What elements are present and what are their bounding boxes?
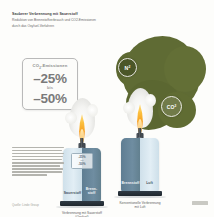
co2-label: CO xyxy=(167,104,175,110)
conventional-label-fuel: Brennstoff xyxy=(121,181,140,185)
co2-card-title: CO2-Emissionen xyxy=(23,63,77,70)
body-text-line xyxy=(12,165,60,166)
oxyfuel-caption-line-2: (Oxyfuel) xyxy=(45,215,119,217)
co2-subscript: 2 xyxy=(174,105,176,108)
carbon-dioxide-molecule-bubble: CO2 xyxy=(161,96,182,117)
body-text-line xyxy=(12,168,63,169)
conventional-tank-base xyxy=(118,191,162,196)
plume-puff-right xyxy=(87,104,98,117)
page-subtitle-line-2: durch das Oxyfuel-Verfahren xyxy=(12,24,132,29)
body-text-line xyxy=(12,159,62,160)
infographic-page: Sauberer Verbrennung mit Sauerstoff Redu… xyxy=(0,0,214,217)
page-subtitle-line-1: Reduktion von Brennstoffverbrauch und CO… xyxy=(12,18,132,23)
oxyfuel-base-shadow xyxy=(56,206,108,208)
body-text-line xyxy=(12,171,62,172)
oxyfuel-label-oxygen: Sauerstoff xyxy=(63,191,82,195)
nitrogen-subscript: 2 xyxy=(128,66,130,69)
body-text-line xyxy=(12,150,62,151)
oxyfuel-reduction-badge: -25% bis -50% xyxy=(71,153,93,169)
page-title: Sauberer Verbrennung mit Sauerstoff xyxy=(12,12,132,17)
co2-value-upper: –25% xyxy=(23,71,77,86)
burner-nozzle xyxy=(80,138,83,147)
oxyfuel-tank: -25% bis -50% Sauerstoff Brenn- stoff xyxy=(63,148,101,202)
conventional-caption-line-2: mit Luft xyxy=(103,205,177,209)
header: Sauberer Verbrennung mit Sauerstoff Redu… xyxy=(12,12,132,28)
body-text-line xyxy=(12,156,63,157)
conventional-label-air: Luft xyxy=(140,181,159,185)
badge-value-bottom: -50% xyxy=(78,163,85,167)
conventional-tank: Brennstoff Luft xyxy=(121,138,159,192)
body-text-line xyxy=(12,153,64,154)
oxyfuel-caption: Verbrennung mit Sauerstoff (Oxyfuel) xyxy=(45,211,119,217)
oxyfuel-tank-base xyxy=(60,201,104,206)
source-credit: Quelle: Linde Group xyxy=(12,203,39,207)
plume-puff-left xyxy=(65,112,77,124)
oxyfuel-label-fuel: Brenn- stoff xyxy=(82,187,101,195)
corner-marker xyxy=(192,201,208,205)
body-text-line xyxy=(12,162,64,163)
body-text-block: Bei der Verbrennung mit reinem Sauerstof… xyxy=(12,147,64,177)
co2-card-title-rest: -Emissionen xyxy=(41,63,68,68)
conventional-base-shadow xyxy=(114,196,166,198)
body-text-line xyxy=(12,174,47,175)
green-emission-cloud xyxy=(104,36,214,148)
plume-puff-right xyxy=(145,94,156,107)
nitrogen-molecule-bubble: N2 xyxy=(118,58,137,77)
co2-value-connector: bis xyxy=(23,86,77,90)
plume-puff-left xyxy=(123,102,135,114)
conventional-caption: Konventionelle Verbrennung mit Luft xyxy=(103,201,177,209)
body-text-line xyxy=(12,147,64,148)
burner-nozzle xyxy=(138,128,141,137)
